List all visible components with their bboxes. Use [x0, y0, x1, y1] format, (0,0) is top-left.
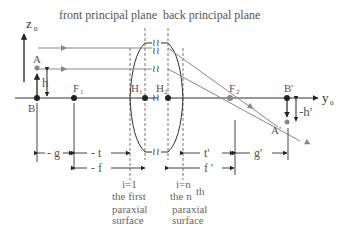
dim-t-label: - t: [91, 146, 102, 160]
y-axis-subscript: 0: [330, 99, 334, 107]
svg-text:F: F: [73, 82, 79, 94]
object-arrow: A B h: [28, 53, 49, 114]
svg-text:the n: the n: [170, 190, 192, 202]
svg-text:th: th: [196, 185, 205, 197]
svg-text:1: 1: [80, 88, 84, 96]
svg-text:F: F: [229, 82, 235, 94]
svg-text:1: 1: [139, 88, 143, 96]
z-axis-label: z: [26, 16, 32, 31]
svg-text:2: 2: [164, 88, 168, 96]
svg-text:i=n: i=n: [176, 178, 191, 190]
height-h-prime-label: -h': [299, 104, 312, 119]
last-surface-caption: i=n the n th paraxial surface: [170, 178, 207, 226]
dim-g-label: - g: [47, 146, 60, 160]
svg-text:2: 2: [236, 88, 240, 96]
back-principal-plane-label: back principal plane: [163, 8, 260, 22]
height-h-label: h: [42, 75, 49, 90]
image-arrow: B' A' -h': [271, 82, 312, 136]
optical-diagram: front principal plane back principal pla…: [0, 0, 341, 243]
svg-text:the first: the first: [112, 190, 146, 202]
light-rays: [38, 48, 308, 143]
svg-text:surface: surface: [112, 214, 144, 226]
svg-text:≀≀: ≀≀: [152, 63, 160, 74]
svg-text:H: H: [156, 82, 164, 94]
z-axis-subscript: 0: [34, 25, 38, 33]
svg-text:≀≀: ≀≀: [152, 45, 160, 56]
first-surface-caption: i=1 the first paraxial surface: [112, 178, 147, 226]
dim-t-prime-label: t': [204, 146, 210, 160]
dim-f-prime-label: f ': [204, 161, 213, 175]
svg-text:H: H: [131, 82, 139, 94]
dim-g-prime-label: g': [254, 146, 262, 160]
dim-f-label: - f: [91, 161, 102, 175]
dimension-lines: [38, 153, 287, 168]
break-symbols: ≀≀ ≀≀ ≀≀ ≀≀ ≀≀: [152, 37, 160, 157]
point-A-label: A: [33, 53, 41, 65]
point-A-prime-label: A': [271, 124, 281, 136]
y-axis-label: y: [322, 90, 329, 105]
svg-text:≀≀: ≀≀: [152, 146, 160, 157]
point-B-prime-label: B': [284, 82, 293, 94]
svg-text:i=1: i=1: [122, 178, 137, 190]
svg-text:surface: surface: [172, 214, 204, 226]
front-principal-plane-label: front principal plane: [59, 8, 157, 22]
z-axis: z 0: [24, 16, 38, 82]
point-B-label: B: [28, 102, 35, 114]
